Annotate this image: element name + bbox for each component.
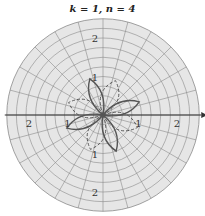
axis-label: 2 <box>26 118 32 129</box>
axis-label: 1 <box>135 118 141 129</box>
axis-label: 1 <box>92 149 98 160</box>
axis-label: 2 <box>92 187 98 198</box>
axis-label: 2 <box>174 118 180 129</box>
polar-plot: 21211212 <box>0 0 205 216</box>
axis-label: 2 <box>92 33 98 44</box>
axis-label: 1 <box>64 118 70 129</box>
axis-arrow-icon <box>201 112 205 118</box>
axis-label: 1 <box>92 72 98 83</box>
